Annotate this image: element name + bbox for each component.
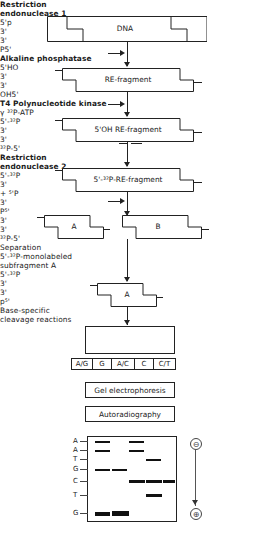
tick-lab-right <box>194 182 202 183</box>
gel-base-label-0: A <box>73 437 78 445</box>
autoradiogram-panel[interactable] <box>87 436 177 522</box>
cleavage-cell[interactable]: C/T <box>153 358 176 370</box>
positive-pole-icon: ⊕ <box>190 508 202 520</box>
pointer-arrow-re2 <box>120 198 125 204</box>
flow-arrow-1 <box>124 62 130 67</box>
flow-line-5 <box>127 239 128 281</box>
cleavage-cell[interactable]: A/G <box>71 358 93 370</box>
gel-base-label-6: G <box>73 509 78 517</box>
gel-band <box>146 494 162 497</box>
polarity-axis-line <box>195 450 196 506</box>
negative-pole-icon: ⊖ <box>190 438 202 450</box>
tick-lab-left <box>55 170 63 171</box>
cleavage-cell[interactable]: G <box>92 358 112 370</box>
gel-band <box>95 469 110 471</box>
tick-b-right <box>202 229 209 230</box>
re-fragment-label: RE-fragment <box>74 73 182 85</box>
gel-base-label-4: C <box>73 477 78 485</box>
gel-base-label-1: A <box>73 446 78 454</box>
gel-band <box>129 450 144 452</box>
cleavage-cell[interactable]: C <box>134 358 154 370</box>
fragment-a-label: A <box>56 220 92 232</box>
pointer-line-kinase <box>119 143 128 144</box>
flow-arrow-3 <box>124 162 130 167</box>
flow-arrow-5 <box>124 277 130 282</box>
restriction-endonuclease-1-line1: Restriction <box>0 0 254 9</box>
gel-base-label-5: T <box>73 491 77 499</box>
gel-tick-2 <box>80 459 88 460</box>
gel-band <box>95 512 110 516</box>
tick-re-right <box>194 82 202 83</box>
pointer-arrow-ap <box>120 101 125 107</box>
gel-band <box>146 459 161 461</box>
oh-re-fragment-label: 5'OH RE-fragment <box>68 123 188 135</box>
tick-sub-left <box>90 285 97 286</box>
gel-base-label-2: T <box>73 455 77 463</box>
flow-arrow-2 <box>124 112 130 117</box>
gel-band <box>112 511 129 516</box>
tick-oh-right <box>194 132 202 133</box>
gel-base-label-3: G <box>73 465 78 473</box>
gel-tick-4 <box>80 481 88 482</box>
dna-label: DNA <box>90 22 160 34</box>
autoradiography-label: Autoradiography <box>85 406 175 422</box>
gel-band <box>146 480 162 483</box>
gel-band <box>129 441 144 443</box>
gel-tick-1 <box>80 450 88 451</box>
tick-a-right <box>104 229 110 230</box>
gel-tick-6 <box>80 513 88 514</box>
gel-band <box>112 469 127 471</box>
tick-sub-right <box>157 297 163 298</box>
base-specific-cleavage-box[interactable] <box>85 326 175 354</box>
fragment-b-label: B <box>134 220 182 232</box>
polarity-axis-arrow <box>192 500 198 505</box>
cleavage-reactions-row: A/G G A/C C C/T <box>71 358 176 370</box>
gel-band <box>95 441 110 443</box>
tick-oh-left <box>55 120 63 121</box>
pointer-line-atp <box>131 143 142 144</box>
gel-band <box>129 480 145 483</box>
labeled-re-fragment-label: 5'-³²P-RE-fragment <box>66 173 190 185</box>
gel-band <box>163 480 175 483</box>
pointer-arrow-re1 <box>120 50 125 56</box>
flow-arrow-6 <box>124 320 130 325</box>
gel-electrophoresis-label: Gel electrophoresis <box>85 382 175 398</box>
gel-tick-5 <box>80 495 88 496</box>
subfragment-a-label: A <box>109 288 145 300</box>
gel-band <box>95 450 110 452</box>
tick-re-left <box>55 70 63 71</box>
gel-tick-3 <box>80 469 88 470</box>
cleavage-cell[interactable]: A/C <box>111 358 135 370</box>
gel-tick-0 <box>80 441 88 442</box>
tick-a-left <box>37 217 44 218</box>
